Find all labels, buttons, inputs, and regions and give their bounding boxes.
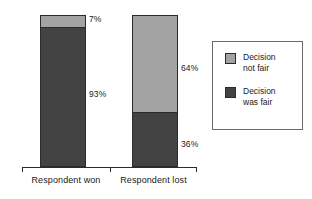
value-label-lost-not-fair: 64% (181, 63, 198, 73)
bar-segment-lost-was-fair (133, 112, 177, 166)
bar-respondent-lost (132, 15, 178, 167)
bar-respondent-won (40, 15, 86, 167)
legend-label-not-fair: Decision not fair (243, 52, 276, 73)
legend-label-was-fair: Decision was fair (243, 86, 276, 107)
x-axis-tick-left (22, 167, 23, 172)
bar-segment-lost-not-fair (133, 16, 177, 112)
bar-segment-won-was-fair (41, 27, 85, 167)
legend-item-not-fair: Decision not fair (225, 52, 302, 73)
legend-swatch-not-fair-icon (225, 53, 236, 64)
x-axis-tick-right (196, 167, 197, 172)
x-axis-label-respondent-won: Respondent won (22, 174, 110, 186)
bar-segment-won-not-fair (41, 16, 85, 27)
x-axis-tick-center (110, 167, 111, 172)
x-axis-label-respondent-lost: Respondent lost (110, 174, 197, 186)
value-label-won-was-fair: 93% (89, 89, 106, 99)
legend-item-was-fair: Decision was fair (225, 86, 302, 107)
legend-swatch-was-fair-icon (225, 87, 236, 98)
chart-legend: Decision not fair Decision was fair (212, 41, 303, 130)
stacked-bar-chart: 7% 93% 64% 36% Respondent won Respondent… (0, 0, 312, 199)
value-label-lost-was-fair: 36% (181, 139, 198, 149)
value-label-won-not-fair: 7% (89, 14, 102, 24)
